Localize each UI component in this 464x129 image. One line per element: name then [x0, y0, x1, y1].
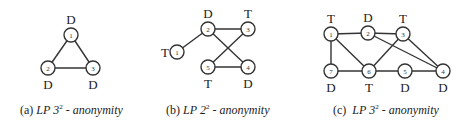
caption-b-exponent: 2 [206, 103, 210, 111]
graph-node-1: 1T [161, 45, 184, 60]
node-type-label: T [327, 11, 335, 26]
graph-node-3: 3D [86, 61, 100, 92]
node-id: 3 [246, 26, 250, 34]
graph-node-6: 6T [362, 64, 376, 95]
caption-a-suffix: - anonymity [66, 103, 123, 117]
caption-c-suffix: - anonymity [382, 103, 439, 117]
graph-panel-a: 1D2D3D [41, 12, 100, 92]
graph-node-7: 7D [324, 64, 338, 95]
graph-node-3: 3T [396, 11, 410, 41]
node-type-label: D [326, 80, 335, 95]
caption-b: (b) LP 22 - anonymity [166, 103, 270, 118]
node-type-label: D [203, 6, 212, 21]
node-id: 7 [329, 68, 333, 76]
node-id: 2 [46, 65, 50, 73]
node-id: 5 [206, 64, 210, 72]
node-type-label: D [66, 12, 75, 27]
caption-c: (c) LP 32 - anonymity [333, 103, 439, 118]
graph-node-2: 2D [361, 10, 375, 40]
graph-node-2: 2D [41, 61, 55, 92]
graph-node-1: 1T [324, 11, 338, 41]
node-type-label: T [399, 11, 407, 26]
graph-panel-b: 1T2D3T4D5T [161, 6, 255, 91]
caption-b-suffix: - anonymity [213, 103, 270, 117]
node-id: 3 [91, 65, 95, 73]
node-id: 2 [366, 30, 370, 38]
node-type-label: T [244, 6, 252, 21]
node-id: 6 [367, 68, 371, 76]
node-type-label: T [365, 80, 373, 95]
caption-c-prefix: (c) [333, 103, 346, 117]
node-type-label: D [400, 80, 409, 95]
node-type-label: D [363, 10, 372, 25]
graph-node-1: 1D [64, 12, 78, 42]
graph-panel-c: 1T2D3T4D5D6T7D [324, 10, 450, 95]
node-id: 1 [175, 49, 179, 57]
caption-a: (a) LP 32 - anonymity [20, 103, 123, 118]
node-id: 1 [69, 32, 73, 40]
caption-a-exponent: 2 [59, 103, 63, 111]
node-id: 2 [206, 26, 210, 34]
node-type-label: T [161, 45, 169, 60]
graph-node-2: 2D [201, 6, 215, 36]
graph-node-3: 3T [241, 6, 255, 36]
node-id: 3 [401, 31, 405, 39]
caption-a-lp: LP [36, 103, 50, 117]
node-id: 1 [329, 31, 333, 39]
caption-c-exponent: 2 [375, 103, 379, 111]
caption-c-lp: LP [352, 103, 366, 117]
node-id: 5 [403, 68, 407, 76]
graph-node-4: 4D [436, 64, 450, 95]
node-type-label: D [243, 76, 252, 91]
node-type-label: D [438, 80, 447, 95]
node-id: 4 [246, 64, 250, 72]
node-type-label: D [43, 77, 52, 92]
edge-1-6 [331, 34, 369, 71]
graph-node-4: 4D [241, 60, 255, 91]
caption-a-prefix: (a) [20, 103, 33, 117]
node-id: 4 [441, 68, 445, 76]
node-type-label: T [204, 76, 212, 91]
graph-node-5: 5D [398, 64, 412, 95]
graph-node-5: 5T [201, 60, 215, 91]
caption-b-prefix: (b) [166, 103, 180, 117]
node-type-label: D [88, 77, 97, 92]
caption-b-lp: LP [183, 103, 197, 117]
